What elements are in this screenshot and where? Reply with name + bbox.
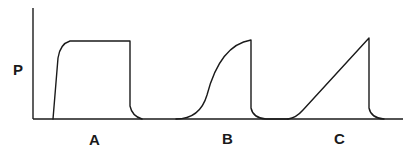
waveform-c-ramp: [288, 38, 384, 119]
waveform-b-sine: [176, 40, 288, 119]
waveform-a-label: A: [89, 131, 100, 148]
waveform-a-square: [53, 41, 142, 119]
y-axis-label: P: [13, 61, 23, 78]
pressure-waveforms-diagram: P A B C: [0, 0, 414, 153]
waveform-b-label: B: [222, 130, 233, 147]
waveform-c-label: C: [334, 130, 345, 147]
